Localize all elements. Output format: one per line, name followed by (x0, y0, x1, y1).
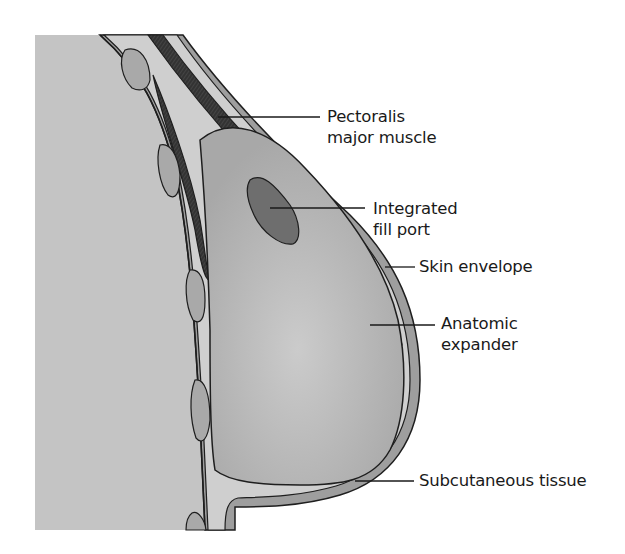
label-skin-envelope: Skin envelope (419, 256, 533, 277)
label-subcutaneous-tissue: Subcutaneous tissue (419, 470, 587, 491)
label-pectoralis: Pectoralis major muscle (327, 106, 436, 148)
anatomic-expander (200, 128, 404, 485)
label-anatomic-expander: Anatomic expander (441, 313, 518, 355)
label-fill-port: Integrated fill port (373, 198, 457, 240)
